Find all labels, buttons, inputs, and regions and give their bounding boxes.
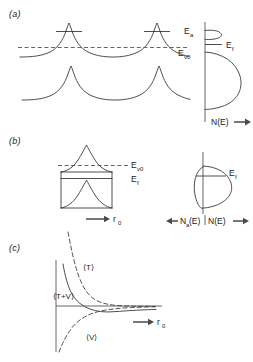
atomic-dos-axis-label-group: N a (E) (166, 216, 201, 228)
potential-energy-curve (59, 307, 157, 352)
label-r0-subscript: 0 (118, 220, 122, 226)
dos-axis-label: N(E) (208, 216, 226, 226)
panel-b-label: (b) (9, 136, 21, 146)
upper-potential-well-curve (20, 23, 189, 57)
panel-b: (b) E v0 E f (9, 136, 249, 228)
dos-arrow-head (243, 218, 249, 224)
panel-c-label: (c) (9, 243, 20, 253)
narrow-upper-lobe (205, 30, 221, 39)
label-ef-subscript: f (235, 174, 237, 180)
upper-cusp-curve (61, 145, 112, 172)
r0-arrow-head (148, 319, 154, 325)
broad-valence-lobe (205, 52, 241, 109)
panel-c: (c) ⟨T⟩ ⟨T+V⟩ ⟨V⟩ r 0 (9, 232, 166, 352)
panel-a-upper-wells (18, 23, 189, 57)
energy-label-ef: E f (226, 40, 234, 52)
dos-axis-label: N(E) (211, 117, 229, 127)
kinetic-energy-label: ⟨T⟩ (83, 263, 94, 272)
figure-root: (a) E a E f (0, 0, 253, 362)
panel-a-dos: E a E f E v0 N(E) (178, 22, 251, 127)
dos-axis-label-group: N(E) (211, 117, 251, 127)
panel-a: (a) E a E f (9, 9, 251, 127)
label-ea-subscript: a (190, 32, 194, 38)
energy-label-ev0: E v0 (178, 48, 191, 60)
narrow-atomic-dos-lobe (194, 167, 203, 208)
lower-cusp-curve (61, 180, 112, 208)
panel-b-label-ev0: E v0 (131, 160, 144, 172)
r0-arrow-head (104, 216, 110, 222)
kinetic-energy-curve (68, 232, 155, 306)
label-ev0-subscript: v0 (137, 166, 144, 172)
lower-potential-well-curve (22, 66, 190, 100)
physics-figure: (a) E a E f (0, 0, 253, 362)
panel-b-dos-label-ef: E f (229, 168, 237, 180)
potential-energy-label: ⟨V⟩ (86, 333, 97, 342)
broad-dos-lobe (203, 166, 232, 208)
panel-c-r0-axis: r 0 (133, 317, 166, 329)
label-na-suffix: (E) (189, 216, 201, 226)
dos-arrow-head (245, 119, 251, 126)
total-energy-label: ⟨T+V⟩ (53, 292, 74, 301)
panel-a-label: (a) (9, 9, 21, 19)
energy-label-ea: E a (184, 26, 194, 38)
total-energy-curve (63, 264, 156, 312)
label-ef-subscript: f (232, 46, 234, 52)
label-ev0-subscript: v0 (184, 54, 191, 60)
label-r0-base: r (157, 317, 160, 327)
label-r0-base: r (113, 214, 116, 224)
panel-b-r0-axis: r 0 (86, 214, 122, 226)
panel-a-lower-wells (22, 66, 190, 100)
panel-b-dos: E f N a (E) N(E) (166, 152, 249, 228)
panel-b-well-box: E v0 E f r 0 (58, 145, 144, 226)
na-arrow-head (166, 218, 172, 224)
dos-axis-label-group: N(E) (208, 216, 249, 226)
label-r0-subscript: 0 (162, 323, 166, 329)
panel-b-label-ef: E f (131, 174, 139, 186)
label-ef-subscript: f (137, 180, 139, 186)
